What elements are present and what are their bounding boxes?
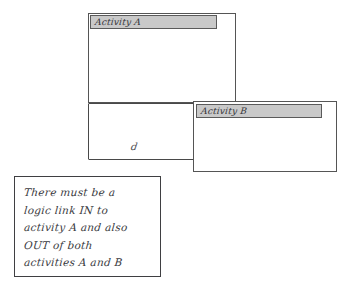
outer-frame-rectangle xyxy=(88,103,196,160)
activity-b-label: Activity B xyxy=(200,105,248,118)
activity-b-titlebar[interactable]: Activity B xyxy=(196,104,322,118)
note-text-block: There must be a logic link IN to activit… xyxy=(24,184,156,272)
activity-b-box[interactable]: Activity B xyxy=(193,101,337,172)
note-line: activity A and also xyxy=(23,219,157,237)
note-line: logic link IN to xyxy=(23,202,157,220)
note-line: activities A and B xyxy=(23,254,157,272)
note-box[interactable]: There must be a logic link IN to activit… xyxy=(14,176,161,277)
diagram-canvas: Activity A Activity B d There must be a … xyxy=(0,0,350,288)
activity-a-box[interactable]: Activity A xyxy=(88,13,236,103)
note-line: There must be a xyxy=(23,184,157,202)
note-line: OUT of both xyxy=(23,237,157,255)
activity-a-titlebar[interactable]: Activity A xyxy=(90,15,217,29)
activity-a-label: Activity A xyxy=(94,16,141,29)
